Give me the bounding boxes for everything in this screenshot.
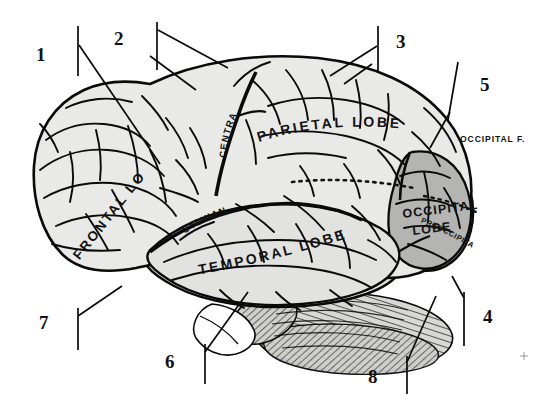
callout-number-6: 6 <box>165 352 175 371</box>
callout-number-7: 7 <box>39 313 49 332</box>
callout-number-5: 5 <box>480 75 490 94</box>
callout-number-3: 3 <box>396 32 406 51</box>
label-occipital-fissure: OCCIPITAL F. <box>460 134 525 144</box>
callout-4-leader <box>452 276 464 298</box>
callout-7-leader <box>78 286 122 316</box>
callout-5-tick <box>448 62 458 120</box>
callout-number-2: 2 <box>114 29 124 48</box>
brain-diagram-figure: FRONTAL LOBE PARIETAL LOBE TEMPORAL LOBE… <box>0 0 535 411</box>
callout-number-1: 1 <box>36 45 46 64</box>
registration-mark <box>520 352 528 360</box>
callout-number-8: 8 <box>368 367 378 386</box>
callout-2-leader <box>158 30 228 68</box>
brain-lateral-view-illustration: FRONTAL LOBE PARIETAL LOBE TEMPORAL LOBE… <box>0 0 535 411</box>
cerebrum-group <box>34 56 473 307</box>
callout-number-4: 4 <box>483 307 493 326</box>
